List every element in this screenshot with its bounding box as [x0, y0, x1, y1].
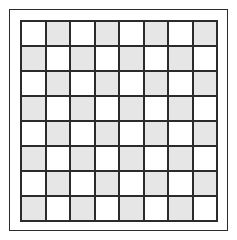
board-cell: [71, 122, 94, 145]
board-cell: [96, 47, 119, 70]
board-cell: [22, 47, 45, 70]
board-cell: [96, 172, 119, 195]
board-cell: [169, 172, 192, 195]
board-cell: [194, 197, 217, 220]
board-cell: [169, 197, 192, 220]
board-cell: [47, 97, 70, 120]
board-cell: [120, 197, 143, 220]
board-cell: [96, 22, 119, 45]
board-cell: [47, 147, 70, 170]
board-cell: [145, 47, 168, 70]
board-cell: [194, 147, 217, 170]
board-cell: [145, 197, 168, 220]
board-cell: [71, 172, 94, 195]
board-cell: [71, 72, 94, 95]
board-cell: [169, 122, 192, 145]
board-cell: [22, 197, 45, 220]
board-cell: [145, 72, 168, 95]
board-cell: [145, 97, 168, 120]
board-cell: [96, 197, 119, 220]
board-cell: [194, 122, 217, 145]
board-cell: [22, 72, 45, 95]
board-cell: [96, 97, 119, 120]
board-cell: [22, 97, 45, 120]
board-cell: [120, 47, 143, 70]
board-cell: [120, 72, 143, 95]
board-cell: [47, 197, 70, 220]
board-cell: [96, 147, 119, 170]
board-cell: [120, 172, 143, 195]
board-cell: [47, 22, 70, 45]
board-cell: [71, 47, 94, 70]
board-cell: [145, 122, 168, 145]
board-cell: [145, 147, 168, 170]
board-cell: [169, 47, 192, 70]
board-cell: [47, 47, 70, 70]
board-cell: [47, 172, 70, 195]
board-cell: [47, 122, 70, 145]
board-cell: [47, 72, 70, 95]
board-cell: [71, 22, 94, 45]
board-cell: [71, 197, 94, 220]
board-cell: [194, 172, 217, 195]
board-cell: [120, 147, 143, 170]
board-cell: [169, 22, 192, 45]
board-cell: [145, 172, 168, 195]
board-cell: [194, 22, 217, 45]
board-cell: [169, 97, 192, 120]
board-cell: [120, 97, 143, 120]
board-cell: [22, 172, 45, 195]
board-cell: [194, 97, 217, 120]
board-cell: [145, 22, 168, 45]
board-cell: [194, 72, 217, 95]
board-cell: [96, 72, 119, 95]
checkerboard-grid: [20, 20, 218, 222]
board-cell: [169, 147, 192, 170]
board-cell: [96, 122, 119, 145]
board-cell: [71, 147, 94, 170]
board-cell: [120, 22, 143, 45]
board-cell: [194, 47, 217, 70]
board-cell: [22, 22, 45, 45]
board-cell: [71, 97, 94, 120]
figure-canvas: [0, 0, 237, 240]
board-cell: [22, 147, 45, 170]
board-cell: [22, 122, 45, 145]
board-cell: [169, 72, 192, 95]
board-cell: [120, 122, 143, 145]
